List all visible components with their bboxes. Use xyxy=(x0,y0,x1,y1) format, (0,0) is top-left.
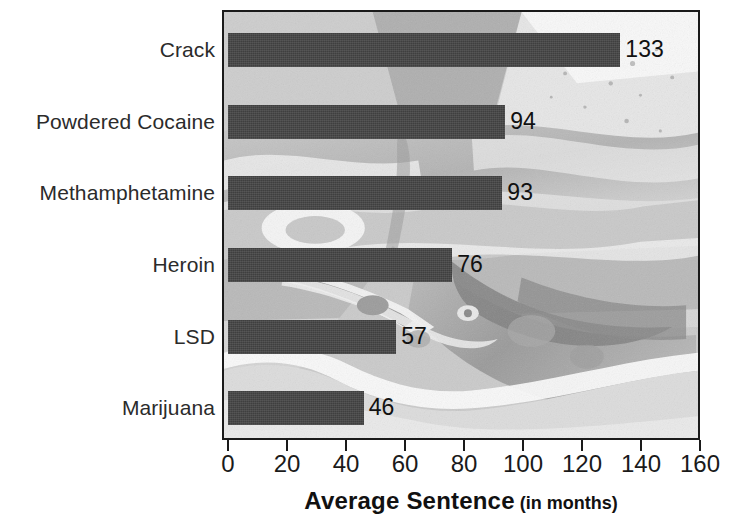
x-axis-tick-label: 40 xyxy=(333,452,360,476)
x-axis-tick-label: 20 xyxy=(274,452,301,476)
category-axis-labels: CrackPowdered CocaineMethamphetamineHero… xyxy=(0,10,215,440)
x-axis-tick-label: 140 xyxy=(621,452,661,476)
category-label: Powdered Cocaine xyxy=(0,111,215,132)
bars-group xyxy=(222,10,700,440)
x-axis-tick-labels: 020406080100120140160 xyxy=(0,452,732,482)
x-axis-title: Average Sentence(in months) xyxy=(222,487,700,515)
bar xyxy=(228,248,452,282)
category-label: Crack xyxy=(0,39,215,60)
x-axis-title-sub: (in months) xyxy=(520,493,618,513)
x-axis-tick-label: 0 xyxy=(221,452,234,476)
category-label: Methamphetamine xyxy=(0,182,215,203)
x-axis-title-main: Average Sentence xyxy=(304,487,514,514)
category-label: Marijuana xyxy=(0,397,215,418)
x-axis-tick-label: 120 xyxy=(562,452,602,476)
bar-chart: CrackPowdered CocaineMethamphetamineHero… xyxy=(0,0,732,526)
category-label: Heroin xyxy=(0,254,215,275)
bar xyxy=(228,320,396,354)
bar xyxy=(228,105,505,139)
x-axis-tick-label: 60 xyxy=(392,452,419,476)
x-axis-tick-label: 100 xyxy=(503,452,543,476)
x-axis-tick-label: 160 xyxy=(680,452,720,476)
bar xyxy=(228,391,364,425)
category-label: LSD xyxy=(0,326,215,347)
bar xyxy=(228,33,620,67)
bar xyxy=(228,176,502,210)
x-axis-tick-label: 80 xyxy=(451,452,478,476)
